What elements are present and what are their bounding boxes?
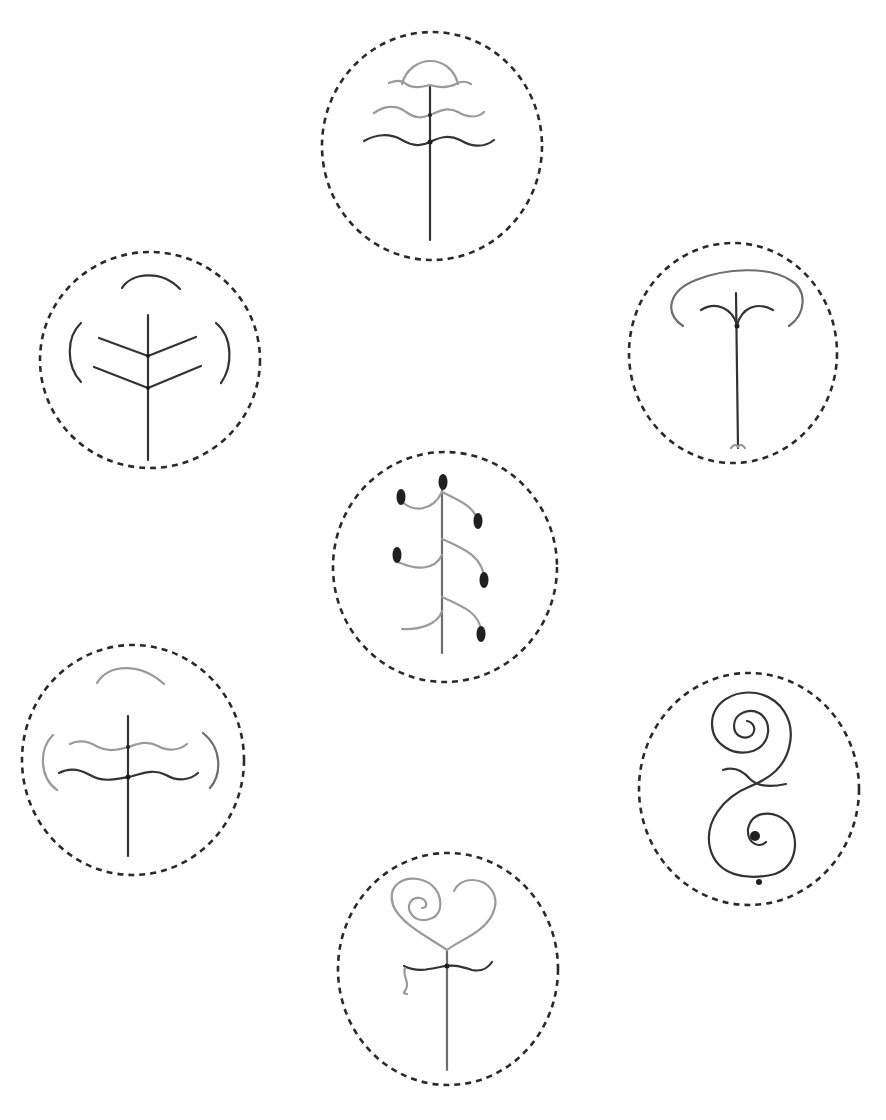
- dashed-circle: [322, 32, 542, 260]
- dashed-circle: [22, 645, 244, 875]
- seed-icon: [480, 572, 489, 588]
- glyph-center: [333, 452, 557, 682]
- seed-icon: [474, 513, 483, 529]
- tree-icon: [70, 275, 230, 460]
- seed-icon: [439, 474, 448, 490]
- symbol-figure: [0, 0, 886, 1120]
- heart-spiral-icon: [392, 879, 496, 1070]
- glyph-lower-right: [639, 673, 859, 905]
- dashed-circle: [629, 243, 837, 463]
- glyph-top-center: [322, 32, 542, 260]
- tree-icon: [671, 270, 802, 448]
- glyph-upper-left: [40, 252, 260, 468]
- tree-icon: [43, 668, 218, 856]
- glyph-bottom-center: [338, 853, 558, 1085]
- seed-icon: [397, 489, 406, 505]
- dashed-circle: [639, 673, 859, 905]
- double-spiral-icon: [709, 693, 795, 885]
- glyph-upper-right: [629, 243, 837, 463]
- seed-icon: [393, 547, 402, 563]
- tree-icon: [364, 61, 494, 240]
- dashed-circle: [40, 252, 260, 468]
- plant-seeds-icon: [393, 474, 489, 653]
- dot-icon: [756, 879, 762, 885]
- glyph-lower-left: [22, 645, 244, 875]
- seed-icon: [477, 626, 486, 642]
